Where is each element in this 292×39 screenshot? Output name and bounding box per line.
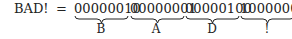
- byte-2-char: D: [202, 22, 222, 36]
- byte-3-bits: 10000001: [240, 1, 292, 16]
- byte-3-char: !: [257, 22, 277, 36]
- lhs-string: BAD!: [14, 1, 49, 16]
- equals-sign: =: [56, 1, 67, 16]
- byte-0-char: B: [91, 22, 111, 36]
- byte-1-char: A: [146, 22, 166, 36]
